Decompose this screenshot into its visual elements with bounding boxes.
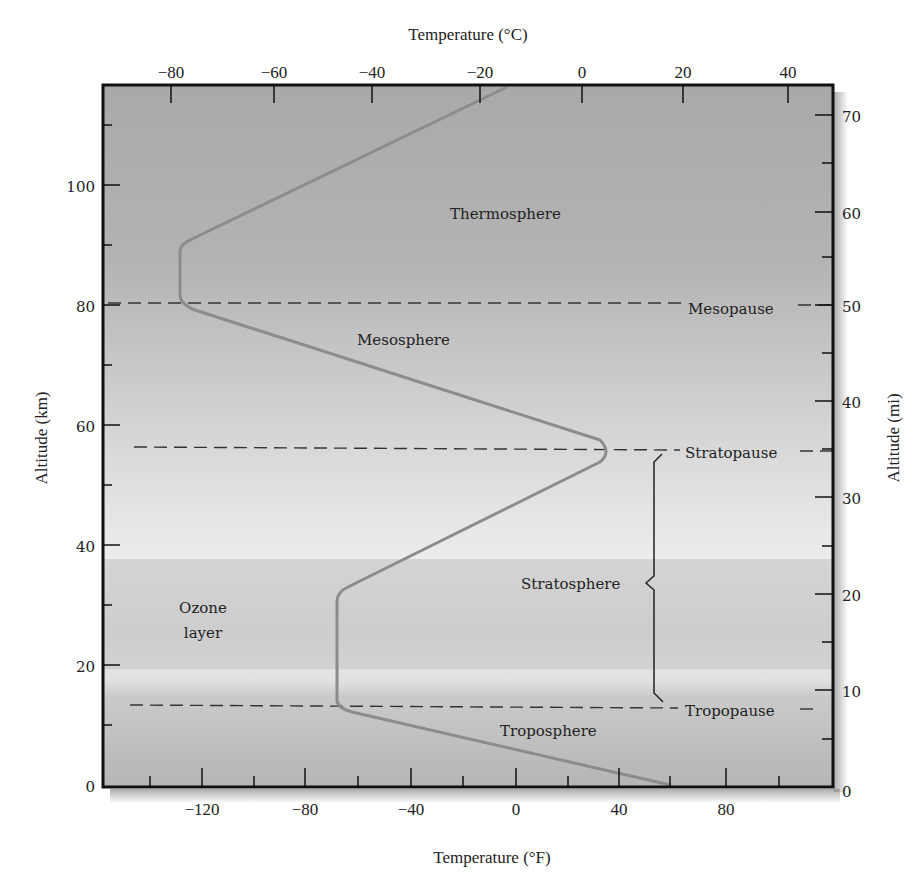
mesopause-label: Mesopause xyxy=(688,300,774,318)
top-axis-labels: −80 −60 −40 −20 0 20 40 xyxy=(158,63,797,82)
left-tick-label: 20 xyxy=(76,658,95,676)
ozone-label-line1: Ozone xyxy=(179,599,227,617)
top-tick-label: −40 xyxy=(359,63,386,82)
right-tick-label: 60 xyxy=(842,205,861,223)
troposphere-label: Troposphere xyxy=(500,722,597,740)
right-tick-label: 10 xyxy=(842,683,861,701)
right-tick-label: 40 xyxy=(842,394,861,412)
mesosphere-label: Mesosphere xyxy=(357,331,450,349)
left-axis-labels: 0 20 40 60 80 100 xyxy=(66,178,95,796)
bottom-tick-label: −120 xyxy=(184,800,219,819)
atmosphere-temperature-chart: −80 −60 −40 −20 0 20 40 Temperature (°C)… xyxy=(0,0,917,890)
top-tick-label: −60 xyxy=(261,63,288,82)
bottom-tick-label: −80 xyxy=(292,800,319,819)
plot-background xyxy=(103,85,833,787)
top-tick-label: −20 xyxy=(467,63,494,82)
right-tick-label: 0 xyxy=(842,783,852,801)
right-tick-label: 70 xyxy=(842,108,861,126)
left-tick-label: 80 xyxy=(76,298,95,316)
stratosphere-label: Stratosphere xyxy=(521,575,620,593)
right-axis-title: Altitude (mi) xyxy=(884,393,903,482)
bottom-tick-label: 80 xyxy=(718,800,735,819)
bottom-axis-title: Temperature (°F) xyxy=(433,848,550,867)
top-axis-title: Temperature (°C) xyxy=(408,25,527,44)
ozone-label-line2: layer xyxy=(184,624,223,642)
top-tick-label: 20 xyxy=(675,63,692,82)
left-tick-label: 40 xyxy=(76,538,95,556)
bottom-tick-label: 40 xyxy=(611,800,628,819)
left-tick-label: 0 xyxy=(85,778,95,796)
right-tick-label: 20 xyxy=(842,587,861,605)
left-tick-label: 100 xyxy=(66,178,95,196)
left-axis-title: Altitude (km) xyxy=(32,391,51,484)
left-tick-label: 60 xyxy=(76,418,95,436)
bottom-tick-label: −40 xyxy=(398,800,425,819)
thermosphere-label: Thermosphere xyxy=(450,205,561,223)
top-tick-label: 40 xyxy=(780,63,797,82)
right-tick-label: 30 xyxy=(842,490,861,508)
tropopause-label: Tropopause xyxy=(685,702,775,720)
top-tick-label: −80 xyxy=(158,63,185,82)
right-tick-label: 50 xyxy=(842,298,861,316)
top-tick-label: 0 xyxy=(578,63,587,82)
stratopause-label: Stratopause xyxy=(685,444,777,462)
bottom-tick-label: 0 xyxy=(512,800,521,819)
